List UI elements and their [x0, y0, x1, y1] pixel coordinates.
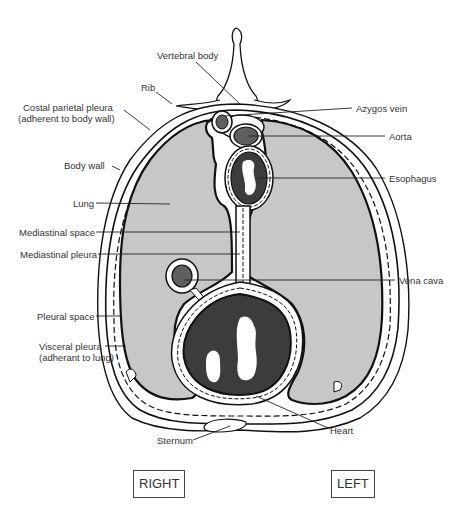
azygos-vein [216, 115, 228, 129]
heart-chamber-left [206, 350, 220, 382]
label-rib: Rib [141, 82, 155, 93]
label-vena-cava: Vena cava [399, 275, 444, 286]
label-heart: Heart [330, 425, 354, 436]
label-pleural-space: Pleural space [37, 311, 95, 322]
label-mediastinal-space: Mediastinal space [19, 227, 95, 238]
label-vertebral-body: Vertebral body [157, 50, 219, 61]
label-visceral-pleura-note: (adherant to lung) [39, 352, 114, 363]
label-mediastinal-pleura: Mediastinal pleura [20, 249, 98, 260]
label-lung: Lung [73, 198, 94, 209]
label-aorta: Aorta [389, 131, 412, 142]
label-esophagus: Esophagus [389, 173, 437, 184]
thorax-cross-section-diagram: Vertebral body Rib Costal parietal pleur… [0, 0, 456, 514]
label-costal-parietal-pleura-note: (adherent to body wall) [18, 113, 115, 124]
label-costal-parietal-pleura: Costal parietal pleura [23, 102, 113, 113]
label-sternum: Sternum [157, 435, 193, 446]
orientation-left-label: LEFT [331, 470, 375, 498]
heart-chamber-right [237, 316, 257, 380]
label-body-wall: Body wall [64, 160, 105, 171]
label-visceral-pleura: Visceral pleura [39, 341, 102, 352]
orientation-right-label: RIGHT [133, 470, 185, 498]
label-azygos-vein: Azygos vein [356, 103, 407, 114]
vena-cava [172, 265, 192, 287]
